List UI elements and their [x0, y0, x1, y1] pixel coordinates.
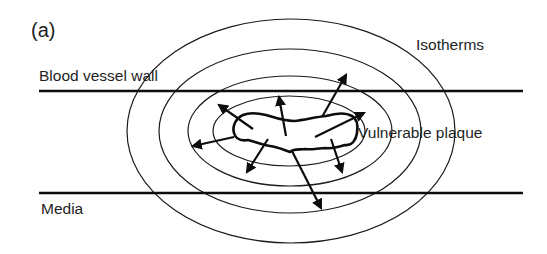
- arrow-down-long-icon: [292, 151, 321, 208]
- isotherm-diagram: (a) Blood vessel wall Isotherms Vulnerab…: [0, 0, 547, 254]
- isotherm-inner: [213, 96, 365, 166]
- vulnerable-plaque-label: Vulnerable plaque: [358, 124, 482, 141]
- arrow-up-left-icon: [219, 105, 253, 129]
- media-label: Media: [41, 200, 84, 217]
- arrow-down-right-icon: [331, 139, 342, 172]
- arrow-left-icon: [193, 137, 234, 146]
- vulnerable-plaque-shape: [233, 113, 357, 152]
- vessel-wall-label: Blood vessel wall: [39, 67, 158, 84]
- panel-label: (a): [31, 19, 55, 41]
- arrow-up-icon: [279, 97, 286, 136]
- isotherms-label: Isotherms: [416, 36, 484, 53]
- heat-flow-arrows: [193, 75, 364, 208]
